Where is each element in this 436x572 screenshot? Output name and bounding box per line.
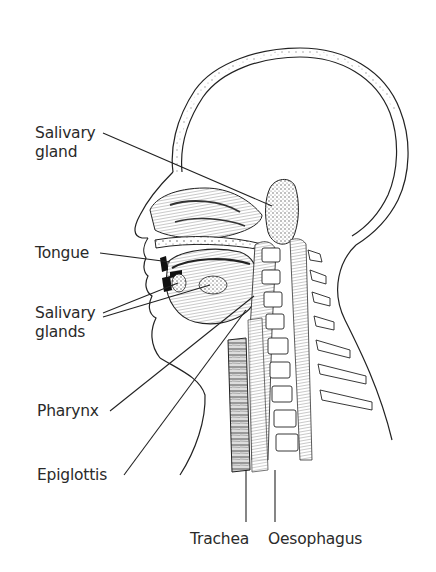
label-tongue: Tongue [35,244,89,263]
label-pharynx: Pharynx [37,402,99,421]
label-epiglottis: Epiglottis [37,466,107,485]
trachea-tube [228,338,250,472]
leader-tongue [100,253,170,262]
nasal-cavity [150,188,262,239]
label-salivary-gland: Salivary gland [35,124,96,162]
parotid-salivary-gland [266,179,299,244]
leader-epiglottis [124,310,246,475]
neck-back-outline [338,245,392,440]
label-oesophagus: Oesophagus [268,530,362,549]
label-salivary-glands: Salivary glands [35,304,96,342]
hard-palate [155,237,262,250]
head-neck-illustration [0,0,436,572]
diagram-canvas [0,0,436,572]
label-trachea: Trachea [190,530,249,549]
